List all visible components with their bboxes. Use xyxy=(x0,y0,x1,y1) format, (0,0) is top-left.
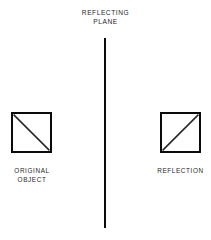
original-object-caption-line-1: ORIGINAL xyxy=(0,166,83,175)
reflection-caption-line-1: REFLECTION xyxy=(130,166,211,175)
original-object-figure xyxy=(11,112,52,153)
reflecting-plane-line xyxy=(104,38,106,228)
original-object-caption: ORIGINAL OBJECT xyxy=(0,166,83,184)
title-line-1: REFLECTING xyxy=(0,8,211,17)
title-line-2: PLANE xyxy=(0,17,211,26)
original-object-diagonal-icon xyxy=(11,112,52,153)
reflection-diagram: REFLECTING PLANE ORIGINAL OBJECT REFLECT… xyxy=(0,0,211,240)
reflection-diagonal-icon xyxy=(160,112,201,153)
reflection-figure xyxy=(160,112,201,153)
reflecting-plane-title: REFLECTING PLANE xyxy=(0,8,211,26)
original-object-caption-line-2: OBJECT xyxy=(0,175,83,184)
reflection-caption: REFLECTION xyxy=(130,166,211,175)
